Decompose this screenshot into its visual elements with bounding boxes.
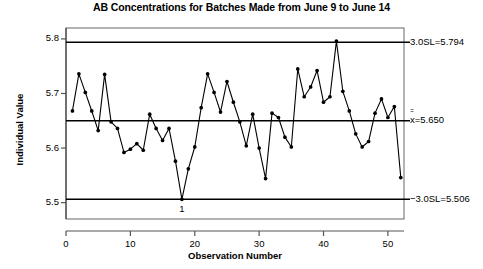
- data-point: [347, 109, 351, 113]
- x-tick-label: 30: [244, 238, 274, 249]
- data-point: [148, 112, 152, 116]
- data-point: [302, 95, 306, 99]
- x-tick-label: 50: [373, 238, 403, 249]
- data-point: [354, 132, 358, 136]
- data-point: [232, 100, 236, 104]
- lower-control-limit-label: −3.0SL=5.506: [410, 193, 470, 204]
- x-tick-label: 20: [180, 238, 210, 249]
- data-point: [328, 95, 332, 99]
- y-tick-label: 5.7: [25, 87, 59, 98]
- data-point: [399, 176, 403, 180]
- data-point: [270, 111, 274, 115]
- data-point: [283, 135, 287, 139]
- data-point: [186, 167, 190, 171]
- data-point: [289, 145, 293, 149]
- data-point: [238, 120, 242, 124]
- data-point: [206, 72, 210, 76]
- data-point: [129, 147, 133, 151]
- data-point: [257, 146, 261, 150]
- data-point: [167, 127, 171, 131]
- data-point: [367, 140, 371, 144]
- y-tick-label: 5.5: [25, 196, 59, 207]
- data-point: [83, 91, 87, 95]
- data-point: [154, 127, 158, 131]
- data-point: [335, 39, 339, 43]
- center-line-label: x=5.650: [410, 114, 444, 125]
- data-point: [212, 91, 216, 95]
- data-point: [116, 127, 120, 131]
- data-point: [193, 145, 197, 149]
- center-line-value: =5.650: [415, 114, 444, 125]
- data-point: [392, 105, 396, 109]
- data-point: [380, 97, 384, 101]
- data-point: [180, 198, 184, 202]
- data-point: [277, 116, 281, 120]
- data-point: [96, 129, 100, 133]
- data-point: [251, 112, 255, 116]
- x-tick-label: 40: [309, 238, 339, 249]
- control-chart: AB Concentrations for Batches Made from …: [0, 0, 483, 269]
- data-point: [309, 85, 313, 89]
- y-tick-label: 5.8: [25, 32, 59, 43]
- control-limit-lines: [66, 42, 410, 199]
- data-point: [161, 139, 165, 143]
- data-point: [315, 69, 319, 73]
- data-point: [174, 159, 178, 163]
- data-point: [386, 116, 390, 120]
- data-point: [341, 89, 345, 93]
- axes-layer: [61, 28, 404, 236]
- data-point: [296, 67, 300, 71]
- data-point: [360, 145, 364, 149]
- y-tick-label: 5.6: [25, 142, 59, 153]
- data-point: [135, 142, 139, 146]
- data-point: [225, 80, 229, 84]
- data-point: [199, 106, 203, 110]
- data-point: [373, 111, 377, 115]
- data-point: [322, 100, 326, 104]
- x-tick-label: 0: [51, 238, 81, 249]
- xdoublebar-symbol: x: [410, 114, 415, 125]
- data-point: [141, 148, 145, 152]
- data-point: [90, 109, 94, 113]
- data-point: [264, 177, 268, 181]
- data-point: [122, 151, 126, 155]
- x-tick-label: 10: [115, 238, 145, 249]
- upper-control-limit-label: 3.0SL=5.794: [410, 36, 464, 47]
- data-point: [244, 144, 248, 148]
- data-point: [103, 73, 107, 77]
- violation-marker-label: 1: [175, 203, 189, 214]
- data-point: [71, 109, 75, 113]
- data-point: [219, 110, 223, 114]
- data-point: [77, 72, 81, 76]
- data-point: [109, 120, 113, 124]
